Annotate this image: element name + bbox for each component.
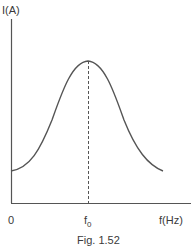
f0-label: f0 [84, 214, 92, 226]
resonance-curve [11, 61, 163, 171]
y-axis-label: I(A) [2, 4, 20, 16]
x-axis-label: f(Hz) [159, 214, 183, 226]
resonance-plot [0, 0, 191, 248]
f0-subscript: 0 [87, 220, 91, 229]
origin-label: 0 [8, 214, 14, 226]
figure-caption: Fig. 1.52 [77, 234, 120, 246]
